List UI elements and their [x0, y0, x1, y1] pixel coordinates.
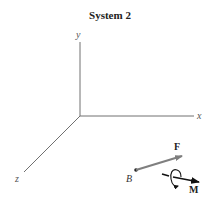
y-axis-label: y: [75, 29, 81, 40]
diagram-canvas: y x z B F M: [0, 0, 213, 203]
force-label: F: [174, 141, 180, 152]
force-vector-f: [136, 156, 182, 170]
x-axis-label: x: [196, 110, 202, 121]
moment-label: M: [189, 184, 199, 195]
z-axis-label: z: [14, 173, 19, 184]
z-axis: [24, 116, 80, 172]
coordinate-axes: [24, 42, 194, 172]
point-b-label: B: [126, 173, 132, 184]
